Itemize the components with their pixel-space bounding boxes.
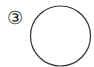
circle-shape <box>31 6 91 66</box>
circle-figure <box>0 0 94 67</box>
